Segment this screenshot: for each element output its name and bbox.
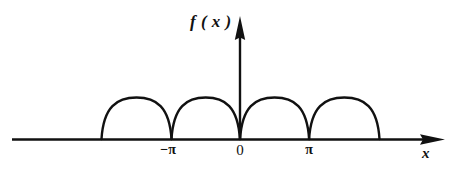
x-axis-arrowhead [420,134,445,145]
arch-curve-4 [309,98,379,140]
arch-curve-2 [172,98,240,140]
y-axis-arrowhead [235,16,245,40]
y-axis-label: f ( x ) [190,13,232,30]
x-tick-label-zero: 0 [230,143,250,158]
x-tick-label-pi: π [297,143,321,157]
x-tick-label-neg-pi: −π [152,143,184,157]
arch-curve-3 [240,98,309,140]
figure-canvas: f ( x ) x −π 0 π [0,0,450,171]
arch-curve-1 [102,98,172,140]
x-axis-label: x [422,146,430,161]
